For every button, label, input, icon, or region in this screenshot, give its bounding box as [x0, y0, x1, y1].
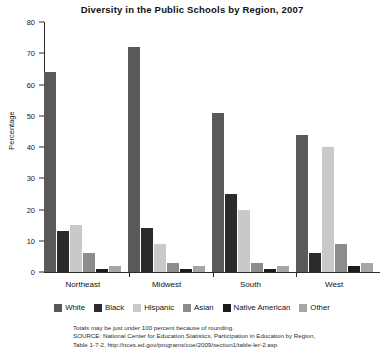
bar-south-asian	[251, 263, 263, 272]
bar-midwest-asian	[167, 263, 179, 272]
legend-label: Asian	[194, 303, 214, 312]
bar-northeast-black	[57, 231, 69, 272]
bar-west-white	[296, 135, 308, 273]
legend-label: Black	[105, 303, 124, 312]
footnote-line-2: SOURCE: National Center for Education St…	[73, 332, 384, 340]
bar-northeast-other	[109, 266, 121, 272]
x-axis-group-separator	[296, 272, 297, 277]
legend-item-white[interactable]: White	[54, 303, 85, 312]
bar-midwest-other	[193, 266, 205, 272]
bar-west-native-american	[348, 266, 360, 272]
y-tick-label: 30	[5, 174, 35, 183]
bar-south-native-american	[264, 269, 276, 272]
y-axis-ticks: 01020304050607080	[0, 22, 44, 272]
bar-group-midwest	[128, 22, 205, 272]
bar-south-other	[277, 266, 289, 272]
legend-swatch-icon	[133, 304, 141, 312]
legend-item-other[interactable]: Other	[299, 303, 330, 312]
bar-midwest-white	[128, 47, 140, 272]
bar-group-south	[212, 22, 289, 272]
chart-title: Diversity in the Public Schools by Regio…	[0, 4, 384, 15]
x-axis-label-northeast: Northeast	[66, 280, 101, 289]
bar-west-black	[309, 253, 321, 272]
y-tick-label: 80	[5, 18, 35, 27]
footnote-line-3-url: Table 1-7-2, http://nces.ed.gov/programs…	[73, 341, 384, 349]
legend-item-asian[interactable]: Asian	[183, 303, 214, 312]
y-tick-label: 40	[5, 143, 35, 152]
legend-label: Other	[310, 303, 330, 312]
bar-west-hispanic	[322, 147, 334, 272]
bar-west-asian	[335, 244, 347, 272]
bar-south-black	[225, 194, 237, 272]
bar-group-northeast	[44, 22, 121, 272]
x-axis-group-separator	[213, 272, 214, 277]
legend-swatch-icon	[183, 304, 191, 312]
y-tick-label: 70	[5, 49, 35, 58]
bar-midwest-native-american	[180, 269, 192, 272]
y-tick-label: 60	[5, 80, 35, 89]
legend-label: White	[65, 303, 85, 312]
legend-swatch-icon	[299, 304, 307, 312]
bars-container: NortheastMidwestSouthWest	[45, 22, 380, 272]
legend-item-hispanic[interactable]: Hispanic	[133, 303, 174, 312]
legend-swatch-icon	[94, 304, 102, 312]
bar-northeast-white	[44, 72, 56, 272]
legend-item-native-american[interactable]: Native American	[223, 303, 291, 312]
y-tick-label: 20	[5, 205, 35, 214]
legend-item-black[interactable]: Black	[94, 303, 124, 312]
bar-group-west	[296, 22, 373, 272]
bar-northeast-asian	[83, 253, 95, 272]
y-tick-label: 10	[5, 236, 35, 245]
legend-swatch-icon	[223, 304, 231, 312]
y-tick-label: 0	[5, 268, 35, 277]
x-axis-label-west: West	[325, 280, 343, 289]
bar-south-hispanic	[238, 210, 250, 273]
legend-swatch-icon	[54, 304, 62, 312]
footnote-line-1: Totals may be just under 100 percent bec…	[73, 324, 384, 332]
legend-label: Native American	[234, 303, 291, 312]
x-axis-label-south: South	[240, 280, 261, 289]
legend-label: Hispanic	[144, 303, 174, 312]
bar-south-white	[212, 113, 224, 272]
bar-northeast-hispanic	[70, 225, 82, 272]
bar-midwest-hispanic	[154, 244, 166, 272]
x-axis-label-midwest: Midwest	[152, 280, 181, 289]
x-axis-group-separator	[129, 272, 130, 277]
footnote: Totals may be just under 100 percent bec…	[73, 324, 384, 349]
legend: WhiteBlackHispanicAsianNative AmericanOt…	[0, 303, 384, 312]
plot-area: Percentage 01020304050607080 NortheastMi…	[0, 22, 384, 284]
bar-west-other	[361, 263, 373, 272]
y-tick-label: 50	[5, 111, 35, 120]
bar-midwest-black	[141, 228, 153, 272]
bar-northeast-native-american	[96, 269, 108, 272]
